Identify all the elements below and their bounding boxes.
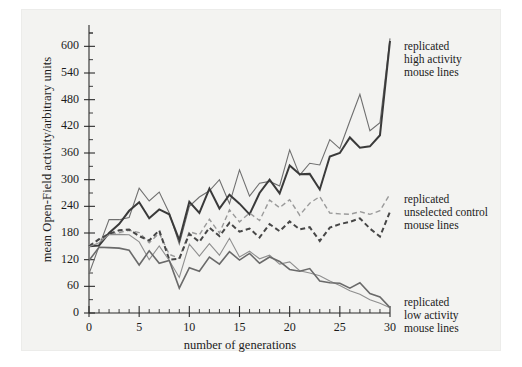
annotation-line: mouse lines [404, 219, 488, 232]
annotation-high-activity: replicatedhigh activitymouse lines [404, 40, 462, 80]
y-tick-label: 300 [45, 172, 79, 187]
annotation-unselected-control: replicatedunselected controlmouse lines [404, 193, 488, 233]
y-tick-label: 120 [45, 252, 79, 267]
x-tick-label: 15 [228, 320, 252, 335]
y-tick-label: 480 [45, 92, 79, 107]
x-axis-label: number of generations [89, 338, 391, 353]
series-line [89, 234, 390, 307]
chart-axes [84, 25, 390, 317]
y-tick-label: 60 [45, 278, 79, 293]
y-tick-label: 420 [45, 118, 79, 133]
x-tick-label: 5 [127, 320, 151, 335]
series-line [89, 212, 390, 260]
y-tick-label: 360 [45, 145, 79, 160]
annotation-line: mouse lines [404, 322, 459, 335]
annotation-line: replicated [404, 40, 462, 53]
x-tick-label: 30 [378, 320, 402, 335]
x-tick-label: 0 [77, 320, 101, 335]
y-tick-label: 600 [45, 38, 79, 53]
y-tick-label: 240 [45, 198, 79, 213]
annotation-line: unselected control [404, 206, 488, 219]
annotation-line: replicated [404, 193, 488, 206]
annotation-line: replicated [404, 296, 459, 309]
chart-series [89, 38, 390, 307]
x-tick-label: 20 [278, 320, 302, 335]
x-tick-label: 25 [328, 320, 352, 335]
series-line [89, 41, 390, 246]
annotation-line: high activity [404, 53, 462, 66]
annotation-line: mouse lines [404, 66, 462, 79]
annotation-line: low activity [404, 309, 459, 322]
y-tick-label: 540 [45, 65, 79, 80]
y-tick-label: 180 [45, 225, 79, 240]
annotation-low-activity: replicatedlow activitymouse lines [404, 296, 459, 336]
y-tick-label: 0 [45, 305, 79, 320]
x-tick-label: 10 [177, 320, 201, 335]
figure-container: mean Open-Field activity/arbitrary units… [0, 0, 522, 367]
